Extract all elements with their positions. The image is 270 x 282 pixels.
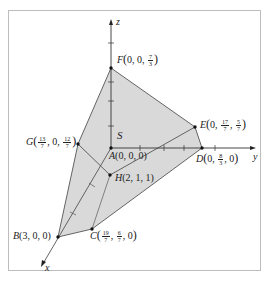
z-axis-arrow-icon [109, 19, 113, 25]
label-d: D(0, 83, 0) [196, 153, 238, 166]
point-h [108, 173, 111, 176]
point-d [200, 146, 203, 149]
label-a: A(0, 0, 0) [109, 151, 147, 161]
label-c: C(197, 67, 0) [90, 230, 137, 243]
y-axis-arrow-icon [250, 146, 256, 150]
label-e: E(0, 177, 57) [200, 119, 246, 132]
point-f [109, 66, 112, 69]
z-axis-label: z [116, 17, 120, 27]
label-b: B(3, 0, 0) [13, 231, 51, 241]
region-s-label: S [117, 130, 123, 140]
y-axis-label: y [253, 152, 257, 162]
point-g [76, 142, 79, 145]
x-axis-label: x [45, 263, 49, 273]
point-e [193, 125, 196, 128]
label-g: G(137, 0, 127) [26, 136, 76, 149]
label-f: F(0, 0, 73) [117, 54, 158, 67]
point-b [56, 235, 59, 238]
label-h: H(2, 1, 1) [115, 173, 154, 183]
